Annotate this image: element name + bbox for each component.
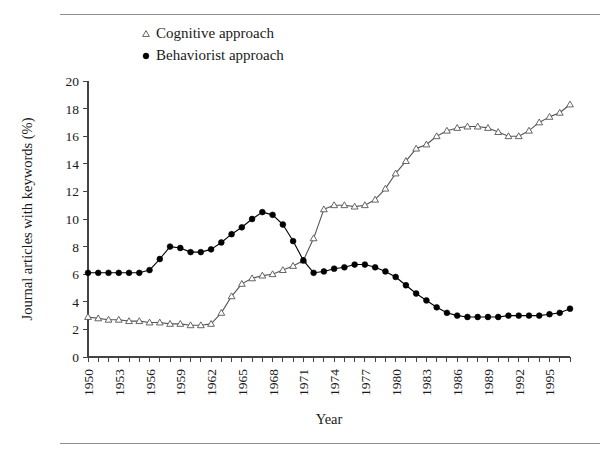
series-group — [85, 101, 574, 328]
y-tick-label: 18 — [66, 102, 80, 117]
data-point-marker — [167, 244, 173, 250]
data-point-marker — [361, 202, 368, 208]
x-tick-label: 1989 — [481, 369, 496, 396]
series-2 — [85, 209, 573, 320]
data-point-marker — [567, 101, 574, 107]
data-point-marker — [290, 263, 297, 269]
x-tick-label: 1950 — [81, 369, 96, 396]
data-point-marker — [383, 269, 389, 275]
data-point-marker — [567, 306, 573, 312]
data-point-marker — [434, 304, 440, 310]
series-line — [88, 104, 570, 325]
legend-entry-1: Cognitive approach — [143, 25, 275, 41]
x-tick-label: 1977 — [358, 369, 373, 396]
data-point-marker — [557, 310, 563, 316]
data-point-marker — [321, 269, 327, 275]
series-1 — [85, 101, 574, 328]
data-point-marker — [198, 249, 204, 255]
y-tick-group: 02468101214161820 — [66, 74, 89, 365]
series-line — [88, 212, 570, 317]
data-point-marker — [218, 309, 225, 315]
y-tick-label: 8 — [72, 240, 79, 255]
data-point-marker — [270, 212, 276, 218]
data-point-marker — [280, 222, 286, 228]
data-point-marker — [341, 264, 347, 270]
y-tick-label: 14 — [66, 157, 80, 172]
data-point-marker — [433, 133, 440, 139]
data-point-marker — [536, 119, 543, 125]
legend-open-triangle-icon — [143, 31, 150, 37]
data-point-marker — [218, 240, 224, 246]
x-tick-label: 1971 — [296, 369, 311, 396]
data-point-marker — [413, 291, 419, 297]
data-point-marker — [547, 311, 553, 317]
data-point-marker — [372, 264, 378, 270]
data-point-marker — [536, 313, 542, 319]
x-tick-label: 1962 — [204, 369, 219, 396]
data-point-marker — [106, 270, 112, 276]
data-point-marker — [147, 267, 153, 273]
line-chart: 02468101214161820 1950195319561959196219… — [0, 0, 605, 453]
data-point-marker — [85, 314, 92, 320]
x-tick-label: 1953 — [112, 369, 127, 396]
x-tick-label: 1995 — [542, 369, 557, 396]
data-point-marker — [95, 270, 101, 276]
data-point-marker — [444, 310, 450, 316]
x-tick-label: 1980 — [389, 369, 404, 396]
data-point-marker — [300, 258, 306, 264]
data-point-marker — [177, 245, 183, 251]
y-tick-label: 10 — [66, 212, 80, 227]
y-tick-label: 4 — [72, 295, 79, 310]
data-point-marker — [526, 313, 532, 319]
legend-entry-2: Behaviorist approach — [143, 47, 284, 63]
legend-label: Cognitive approach — [156, 25, 274, 41]
data-point-marker — [229, 231, 235, 237]
data-point-marker — [403, 282, 409, 288]
x-tick-label: 1992 — [512, 369, 527, 396]
data-point-marker — [116, 270, 122, 276]
data-point-marker — [310, 235, 317, 241]
y-tick-label: 20 — [66, 74, 80, 89]
data-point-marker — [362, 262, 368, 268]
data-point-marker — [290, 238, 296, 244]
data-point-marker — [331, 266, 337, 272]
y-tick-label: 2 — [72, 322, 79, 337]
data-point-marker — [352, 262, 358, 268]
data-point-marker — [475, 314, 481, 320]
data-point-marker — [249, 216, 255, 222]
data-point-marker — [382, 185, 389, 191]
y-tick-label: 0 — [72, 350, 79, 365]
data-point-marker — [506, 313, 512, 319]
x-tick-label: 1965 — [235, 369, 250, 396]
x-tick-label: 1986 — [450, 369, 465, 396]
data-point-marker — [85, 270, 91, 276]
data-point-marker — [424, 298, 430, 304]
x-tick-label: 1983 — [419, 369, 434, 396]
data-point-marker — [136, 270, 142, 276]
data-point-marker — [259, 209, 265, 215]
y-tick-label: 16 — [66, 129, 80, 144]
legend-group: Cognitive approachBehaviorist approach — [143, 25, 285, 63]
data-point-marker — [126, 270, 132, 276]
x-tick-label: 1974 — [327, 369, 342, 396]
data-point-marker — [311, 270, 317, 276]
data-point-marker — [516, 313, 522, 319]
data-point-marker — [157, 256, 163, 262]
x-tick-label: 1959 — [173, 369, 188, 396]
data-point-marker — [495, 314, 501, 320]
y-tick-label: 6 — [72, 267, 79, 282]
x-axis-title: Year — [316, 411, 343, 427]
top-horizontal-rule — [60, 14, 600, 15]
data-point-marker — [239, 224, 245, 230]
legend-label: Behaviorist approach — [156, 47, 284, 63]
data-point-marker — [454, 313, 460, 319]
data-point-marker — [393, 274, 399, 280]
x-tick-label: 1956 — [143, 369, 158, 396]
y-tick-label: 12 — [66, 184, 80, 199]
y-axis-title: Journal articles with keywords (%) — [19, 117, 36, 320]
data-point-marker — [188, 249, 194, 255]
data-point-marker — [485, 314, 491, 320]
bottom-horizontal-rule — [60, 443, 600, 444]
data-point-marker — [238, 280, 245, 286]
figure-root: 02468101214161820 1950195319561959196219… — [0, 0, 605, 453]
